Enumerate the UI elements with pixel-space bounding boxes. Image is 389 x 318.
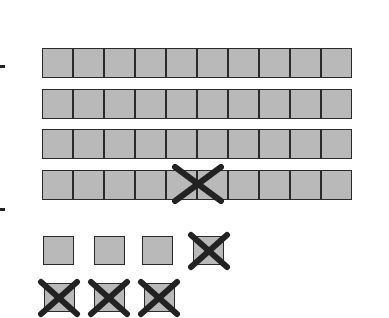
- ones-unit-1: [43, 236, 74, 265]
- tens-rod-3: [42, 129, 352, 159]
- left-mark-top: [0, 65, 5, 68]
- cross-mark-icon: [187, 231, 231, 271]
- tens-rod-1: [42, 48, 352, 78]
- cross-mark-icon: [137, 278, 181, 318]
- cross-mark-icon: [87, 278, 131, 318]
- ones-unit-3: [142, 236, 173, 265]
- cross-mark-icon: [172, 164, 224, 204]
- left-mark-bottom: [0, 208, 5, 211]
- ones-unit-2: [94, 236, 125, 265]
- cross-mark-icon: [37, 278, 81, 318]
- tens-rod-2: [42, 89, 352, 119]
